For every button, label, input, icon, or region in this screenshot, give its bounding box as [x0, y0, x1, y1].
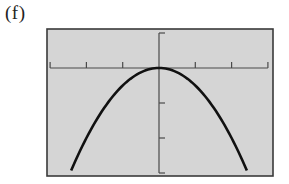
graph-plot	[0, 0, 289, 184]
